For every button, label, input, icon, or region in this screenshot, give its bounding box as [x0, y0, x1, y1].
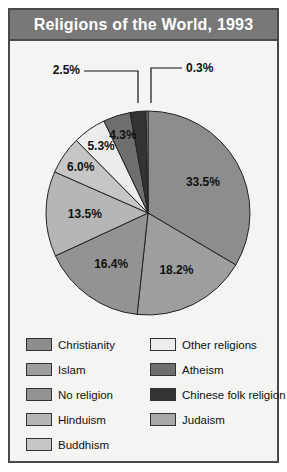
slice-label-atheism: 4.3% — [109, 128, 137, 142]
legend-item-judaism[interactable]: Judaism — [150, 407, 280, 432]
legend-swatch-icon — [26, 438, 52, 451]
legend-item-label: Atheism — [182, 364, 224, 376]
chart-title-bar: Religions of the World, 1993 — [10, 10, 277, 41]
page-title: Religions of the World, 1993 — [34, 16, 254, 34]
legend-item-label: No religion — [58, 389, 113, 401]
legend-item-label: Judaism — [182, 414, 225, 426]
legend-swatch-icon — [150, 363, 176, 376]
pie-leader-line-group — [84, 68, 182, 103]
legend-item-label: Buddhism — [58, 439, 109, 451]
legend-swatch-icon — [150, 388, 176, 401]
legend-item-chinese-folk-religion[interactable]: Chinese folk religion — [150, 382, 280, 407]
legend-item-christianity[interactable]: Christianity — [26, 332, 154, 357]
legend-swatch-icon — [150, 413, 176, 426]
legend-item-buddhism[interactable]: Buddhism — [26, 432, 154, 457]
legend-item-no-religion[interactable]: No religion — [26, 382, 154, 407]
legend: ChristianityIslamNo religionHinduismBudd… — [10, 330, 277, 463]
legend-item-hinduism[interactable]: Hinduism — [26, 407, 154, 432]
callout-label-judaism: 0.3% — [186, 61, 214, 75]
slice-label-christianity: 33.5% — [186, 175, 220, 189]
legend-column-right: Other religionsAtheismChinese folk relig… — [150, 332, 280, 432]
legend-item-other-religions[interactable]: Other religions — [150, 332, 280, 357]
legend-item-label: Christianity — [58, 339, 115, 351]
legend-item-label: Other religions — [182, 339, 257, 351]
legend-item-label: Islam — [58, 364, 85, 376]
legend-item-islam[interactable]: Islam — [26, 357, 154, 382]
callout-label-chinese-folk-religion: 2.5% — [53, 63, 81, 77]
chart-card: Religions of the World, 1993 33.5%18.2%1… — [8, 8, 279, 463]
legend-swatch-icon — [150, 338, 176, 351]
legend-item-atheism[interactable]: Atheism — [150, 357, 280, 382]
pie-chart-plot-area: 33.5%18.2%16.4%13.5%6.0%5.3%4.3% 2.5% 0.… — [10, 41, 277, 333]
legend-swatch-icon — [26, 338, 52, 351]
slice-label-islam: 18.2% — [159, 263, 193, 277]
slice-label-hinduism: 13.5% — [68, 207, 102, 221]
leader-line-chinese-folk-religion — [84, 71, 138, 103]
slice-label-no-religion: 16.4% — [94, 257, 128, 271]
legend-swatch-icon — [26, 363, 52, 376]
leader-line-judaism — [151, 68, 182, 103]
legend-column-left: ChristianityIslamNo religionHinduismBudd… — [26, 332, 154, 457]
legend-item-label: Hinduism — [58, 414, 106, 426]
legend-swatch-icon — [26, 413, 52, 426]
slice-label-buddhism: 6.0% — [67, 160, 95, 174]
legend-item-label: Chinese folk religion — [182, 389, 286, 401]
legend-swatch-icon — [26, 388, 52, 401]
pie-chart-svg: 33.5%18.2%16.4%13.5%6.0%5.3%4.3% 2.5% 0.… — [10, 41, 281, 333]
